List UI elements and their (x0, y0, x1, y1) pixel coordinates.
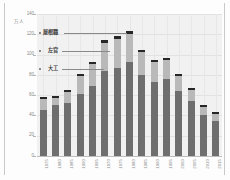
bar-stack[interactable] (77, 74, 84, 156)
callout-label-sakan: 左官 (48, 48, 58, 53)
y-axis-tick-mark (33, 75, 36, 76)
bar-stack[interactable] (212, 112, 219, 156)
bar-segment-daiku (200, 115, 207, 156)
bar-segment-sakan (163, 60, 170, 79)
callout-line-daiku (62, 69, 104, 70)
callout-dot-yane (39, 32, 41, 34)
bar-stack[interactable] (64, 90, 71, 156)
bar-stack[interactable] (175, 74, 182, 156)
bar-segment-daiku (77, 94, 84, 156)
bar-stack[interactable] (101, 40, 108, 156)
x-axis-line (37, 156, 222, 157)
bar-segment-sakan (40, 99, 47, 110)
bar-segment-sakan (52, 98, 59, 105)
bar-stack[interactable] (151, 60, 158, 156)
x-axis-tick-label: 1985 (144, 159, 148, 169)
bar-segment-daiku (188, 101, 195, 156)
callout-dot-daiku (39, 68, 41, 70)
bar-segment-sakan (64, 92, 71, 103)
bar-stack[interactable] (188, 88, 195, 156)
y-axis-tick-label: 40 (8, 113, 34, 118)
bar-segment-daiku (89, 86, 96, 156)
chart-figure: 万人 020406080100120140 197519801985199019… (0, 0, 230, 180)
y-axis-tick-mark (33, 55, 36, 56)
bar-segment-sakan (200, 107, 207, 115)
bar-stack[interactable] (163, 58, 170, 156)
callout-line-yane (64, 33, 127, 34)
bar-segment-sakan (151, 62, 158, 82)
y-axis-tick-mark (33, 136, 36, 137)
bar-segment-sakan (126, 34, 133, 61)
x-axis-tick-label: 1980 (132, 159, 136, 169)
bar-stack[interactable] (89, 62, 96, 156)
y-axis-tick-label: 20 (8, 133, 34, 138)
y-axis-tick-mark (33, 34, 36, 35)
x-axis-tick-label: 2000 (181, 159, 185, 169)
bar-segment-sakan (188, 90, 195, 101)
y-axis-unit-label: 万人 (14, 20, 24, 25)
y-axis-tick-label: 60 (8, 93, 34, 98)
bar-segment-sakan (114, 39, 121, 67)
bar-segment-daiku (151, 82, 158, 156)
x-axis-tick-label: 1990 (156, 159, 160, 169)
x-axis-tick-label: 1990 (82, 159, 86, 169)
y-axis-tick-label: 120 (8, 32, 34, 37)
bar-segment-daiku (101, 71, 108, 156)
callout-dot-sakan (39, 50, 41, 52)
x-axis-tick-label: 1985 (70, 159, 74, 169)
bar-segment-daiku (163, 79, 170, 156)
callout-label-yane: 屋根職 (43, 30, 58, 35)
x-axis-tick-label: 2005 (193, 159, 197, 169)
y-axis-tick-label: 0 (8, 154, 34, 159)
x-axis-tick-label: 1980 (58, 159, 62, 169)
bar-stack[interactable] (114, 36, 121, 156)
bar-segment-daiku (175, 91, 182, 156)
bar-segment-sakan (101, 43, 108, 70)
callout-label-daiku: 大工 (48, 66, 58, 71)
x-axis-tick-label: 1975 (119, 159, 123, 169)
x-axis-tick-label: 2015 (218, 159, 222, 169)
bar-segment-daiku (64, 103, 71, 156)
bar-segment-daiku (114, 68, 121, 156)
bar-segment-daiku (52, 105, 59, 156)
bar-segment-sakan (175, 76, 182, 91)
y-axis-tick-label: 140 (8, 12, 34, 17)
y-axis-tick-mark (33, 156, 36, 157)
y-axis-tick-mark (33, 115, 36, 116)
y-axis-tick-mark (33, 95, 36, 96)
y-axis-tick-label: 80 (8, 73, 34, 78)
bar-segment-daiku (212, 121, 219, 157)
bar-segment-daiku (138, 75, 145, 156)
bar-segment-daiku (126, 62, 133, 156)
bar-segment-sakan (138, 52, 145, 75)
bar-stack[interactable] (52, 96, 59, 156)
y-axis-tick-mark (33, 14, 36, 15)
x-axis-tick-label: 1995 (169, 159, 173, 169)
x-axis-tick-label: 1995 (95, 159, 99, 169)
x-axis-tick-label: 1970 (107, 159, 111, 169)
x-axis-tick-label: 1975 (45, 159, 49, 169)
x-axis-tick-label: 2010 (206, 159, 210, 169)
bar-stack[interactable] (126, 31, 133, 156)
y-axis-tick-label: 100 (8, 52, 34, 57)
bar-segment-sakan (89, 64, 96, 86)
bar-segment-sakan (77, 76, 84, 94)
bar-stack[interactable] (40, 97, 47, 156)
bar-segment-daiku (40, 110, 47, 156)
callout-line-sakan (62, 51, 110, 52)
bar-stack[interactable] (138, 50, 145, 156)
bar-stack[interactable] (200, 105, 207, 156)
